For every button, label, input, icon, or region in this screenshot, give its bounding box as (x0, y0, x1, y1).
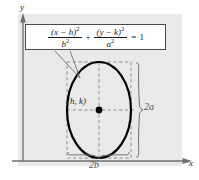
equation-term-1: (x − h)2 b2 (48, 26, 82, 49)
equation-term-2-numerator: (y − k)2 (94, 26, 128, 37)
x-axis (12, 158, 192, 164)
equation-right-hand-side: 1 (139, 33, 144, 42)
equation-expression: (x − h)2 b2 + (y − k)2 a2 = 1 (47, 26, 144, 49)
ellipse-figure: (x − h)2 b2 + (y − k)2 a2 = 1 y x (h, k)… (0, 0, 199, 180)
ellipse-center-label: (h, k) (67, 96, 86, 106)
equation-term-2: (y − k)2 a2 (94, 26, 128, 49)
vertical-extent-label: 2a (144, 101, 154, 112)
term-2-numerator-text: (y − k) (97, 27, 122, 37)
equation-callout-box: (x − h)2 b2 + (y − k)2 a2 = 1 (25, 24, 166, 50)
equation-operator: + (85, 33, 90, 42)
term-1-numerator-text: (x − h) (51, 27, 76, 37)
term-1-denominator-exponent: 2 (66, 37, 69, 44)
term-1-numerator-exponent: 2 (76, 25, 79, 32)
horizontal-extent-label: 2b (89, 159, 99, 170)
x-axis-label: x (189, 158, 193, 168)
y-axis-label: y (20, 2, 24, 12)
equation-equals-sign: = (131, 33, 136, 42)
term-2-denominator-exponent: 2 (111, 37, 114, 44)
equation-term-1-numerator: (x − h)2 (48, 26, 82, 37)
term-2-numerator-exponent: 2 (121, 25, 124, 32)
equation-term-1-denominator: b2 (58, 38, 72, 49)
ellipse-center-point (96, 107, 103, 114)
vertical-extent-brace (136, 63, 143, 157)
equation-term-2-denominator: a2 (104, 38, 118, 49)
